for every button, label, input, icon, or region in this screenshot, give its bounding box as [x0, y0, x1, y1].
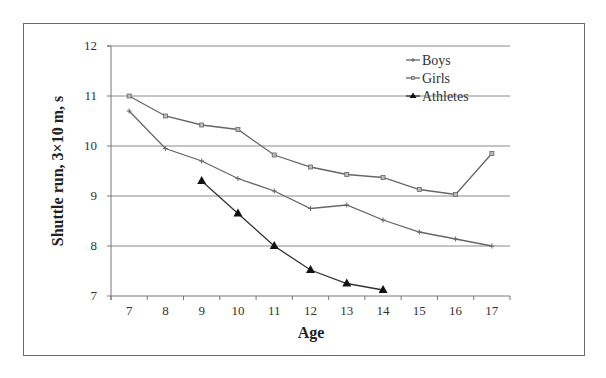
triangle-marker-icon: [233, 209, 242, 217]
plus-marker-icon: [453, 237, 458, 242]
y-tick-label: 8: [91, 238, 98, 253]
x-tick-label: 12: [304, 303, 317, 318]
plus-marker-icon: [235, 176, 240, 181]
x-tick-labels: 7891011121314151617: [126, 303, 499, 318]
x-tick-label: 11: [268, 303, 281, 318]
square-marker-icon: [127, 94, 131, 98]
x-axis-title: Age: [298, 324, 325, 342]
legend: BoysGirlsAthletes: [406, 53, 469, 104]
y-axis-title: Shuttle run, 3×10 m, s: [49, 96, 66, 246]
square-marker-icon: [309, 165, 313, 169]
legend-label: Boys: [422, 53, 451, 68]
gridlines: [111, 46, 510, 246]
square-marker-icon: [412, 77, 415, 80]
legend-item-boys: Boys: [406, 53, 451, 68]
y-tick-label: 12: [84, 38, 97, 53]
series-athletes: [197, 176, 387, 293]
triangle-marker-icon: [197, 176, 206, 184]
square-marker-icon: [454, 193, 458, 197]
plus-marker-icon: [411, 58, 415, 62]
x-tick-label: 7: [126, 303, 133, 318]
plus-marker-icon: [308, 206, 313, 211]
y-tick-label: 7: [91, 288, 98, 303]
plus-marker-icon: [344, 203, 349, 208]
square-marker-icon: [381, 176, 385, 180]
legend-label: Girls: [422, 71, 450, 86]
legend-item-girls: Girls: [406, 71, 450, 86]
x-tick-label: 15: [413, 303, 426, 318]
plus-marker-icon: [489, 244, 494, 249]
series-girls: [127, 94, 494, 197]
square-marker-icon: [490, 152, 494, 156]
plus-marker-icon: [199, 159, 204, 164]
square-marker-icon: [236, 128, 240, 132]
legend-label: Athletes: [422, 89, 469, 104]
triangle-marker-icon: [410, 93, 417, 99]
triangle-marker-icon: [270, 241, 279, 249]
x-tick-label: 14: [377, 303, 391, 318]
y-tick-label: 9: [91, 188, 98, 203]
square-marker-icon: [200, 123, 204, 127]
series-boys: [127, 109, 495, 249]
y-tick-label: 11: [84, 88, 97, 103]
x-tick-label: 17: [485, 303, 499, 318]
series-lines: [127, 94, 495, 293]
x-tick-label: 10: [231, 303, 244, 318]
plus-marker-icon: [381, 218, 386, 223]
y-tick-labels: 789101112: [84, 38, 98, 303]
x-tick-label: 13: [340, 303, 353, 318]
plus-marker-icon: [417, 230, 422, 235]
square-marker-icon: [417, 188, 421, 192]
x-tick-label: 8: [162, 303, 169, 318]
x-tick-label: 9: [198, 303, 205, 318]
triangle-marker-icon: [306, 265, 315, 273]
x-tick-label: 16: [449, 303, 463, 318]
square-marker-icon: [345, 173, 349, 177]
y-tick-label: 10: [84, 138, 97, 153]
legend-item-athletes: Athletes: [406, 89, 469, 104]
square-marker-icon: [272, 153, 276, 157]
line-chart: 789101112 7891011121314151617 BoysGirlsA…: [0, 0, 606, 378]
plus-marker-icon: [272, 189, 277, 194]
square-marker-icon: [163, 114, 167, 118]
